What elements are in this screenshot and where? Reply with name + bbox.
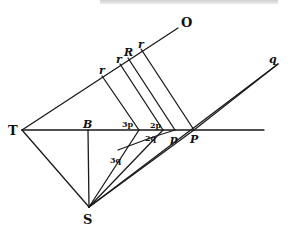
label-r-3: r xyxy=(138,38,145,51)
line-B-S xyxy=(88,130,89,207)
label-q: q xyxy=(269,53,277,66)
line-T-O xyxy=(22,28,178,130)
ray-S-3p xyxy=(89,130,139,207)
label-O: O xyxy=(181,15,192,30)
label-3q: 3q xyxy=(110,155,122,165)
label-R: R xyxy=(123,46,133,59)
label-T: T xyxy=(8,123,18,138)
geometric-diagram: O q r r R r T B S 3p 2p 2q 3q p P xyxy=(0,0,294,238)
line-T-S xyxy=(22,130,89,207)
label-B: B xyxy=(82,118,92,131)
label-2p: 2p xyxy=(150,120,162,130)
label-p: p xyxy=(170,133,178,146)
label-2q: 2q xyxy=(145,133,157,143)
label-S: S xyxy=(83,212,92,227)
label-3p: 3p xyxy=(122,119,134,129)
line-P-q xyxy=(194,64,278,130)
label-P: P xyxy=(189,133,199,146)
